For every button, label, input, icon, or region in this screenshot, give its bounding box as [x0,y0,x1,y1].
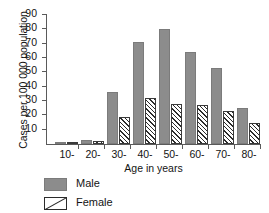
bar-group [159,15,183,144]
bar-female [223,111,234,144]
bar-chart: Cases per 100 000 population 10203040506… [0,0,269,213]
bar-female [67,142,78,144]
y-tick: 20 [42,114,47,115]
bar-male [55,142,66,144]
y-tick: 90 [42,14,47,15]
bar-group [211,15,235,144]
bar-female [93,141,104,144]
bar-group [185,15,209,144]
x-tick-label: 80- [234,148,264,160]
bar-group [107,15,131,144]
bar-female [145,98,156,144]
bar-female [119,117,130,144]
y-tick-label: 80 [25,21,37,33]
bar-male [159,29,170,144]
bar-group [81,15,105,144]
y-tick: 30 [42,100,47,101]
bar-male [133,42,144,144]
bar-female [197,105,208,144]
bar-male [237,108,248,144]
bar-group [237,15,261,144]
y-tick-label: 30 [25,93,37,105]
legend-label-female: Female [76,196,113,208]
bar-male [107,92,118,144]
plot-area: 102030405060708090 10-20-30-40-50-60-70-… [46,15,261,145]
bar-female [171,104,182,144]
bar-group [55,15,79,144]
y-tick-label: 60 [25,50,37,62]
x-axis-title: Age in years [46,162,261,174]
bar-group [133,15,157,144]
y-tick: 60 [42,57,47,58]
y-tick: 80 [42,28,47,29]
y-tick: 10 [42,129,47,130]
bar-male [185,52,196,144]
y-tick-label: 50 [25,64,37,76]
y-tick-label: 10 [25,122,37,134]
y-tick-label: 90 [25,7,37,19]
bar-male [81,140,92,144]
y-axis-line [46,15,47,145]
bar-female [249,123,260,145]
y-tick-label: 20 [25,107,37,119]
legend-label-male: Male [76,177,100,189]
y-tick-label: 70 [25,36,37,48]
legend-swatch-male-icon [44,178,67,191]
y-tick-label: 40 [25,79,37,91]
y-tick: 40 [42,86,47,87]
y-tick: 50 [42,71,47,72]
bar-male [211,68,222,144]
legend-swatch-female-icon [44,197,67,210]
y-tick: 70 [42,43,47,44]
